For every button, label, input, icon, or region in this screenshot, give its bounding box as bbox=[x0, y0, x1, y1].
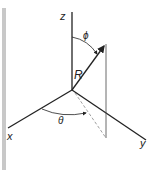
y-axis-label: y bbox=[139, 137, 147, 149]
phi-label: ϕ bbox=[83, 30, 89, 41]
x-axis-label: x bbox=[6, 130, 13, 142]
z-axis-label: z bbox=[59, 10, 66, 22]
radius-label: R bbox=[74, 68, 83, 82]
theta-label: θ bbox=[58, 115, 64, 126]
spherical-coordinates-diagram: z x y R ϕ θ bbox=[0, 0, 151, 174]
theta-arc bbox=[42, 109, 86, 115]
y-axis bbox=[72, 90, 146, 140]
projection-dashed-line bbox=[75, 93, 106, 138]
